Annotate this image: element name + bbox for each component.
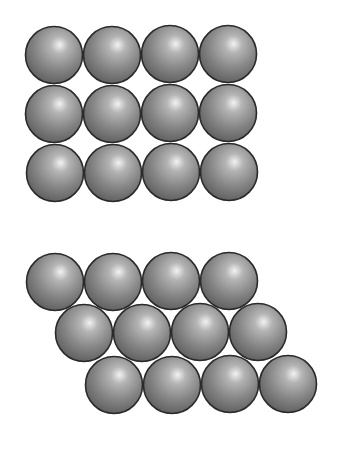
square-sphere: [142, 26, 199, 83]
hex-sphere: [144, 357, 201, 414]
hex-sphere: [114, 305, 171, 362]
square-sphere: [142, 85, 199, 142]
square-packing-group: [26, 26, 258, 202]
hex-sphere: [202, 356, 259, 413]
square-sphere: [200, 26, 257, 83]
hexagonal-packing-group: [27, 253, 317, 414]
hex-sphere: [85, 254, 142, 311]
hex-sphere: [230, 304, 287, 361]
hex-sphere: [56, 305, 113, 362]
sphere-packing-diagram: [0, 0, 337, 449]
square-sphere: [27, 145, 84, 202]
square-sphere: [200, 85, 257, 142]
hex-sphere: [86, 357, 143, 414]
hex-sphere: [143, 253, 200, 310]
square-sphere: [143, 144, 200, 201]
square-sphere: [84, 86, 141, 143]
square-sphere: [84, 27, 141, 84]
square-sphere: [26, 86, 83, 143]
hex-sphere: [172, 304, 229, 361]
square-sphere: [85, 145, 142, 202]
square-sphere: [26, 27, 83, 84]
hex-sphere: [201, 253, 258, 310]
hex-sphere: [27, 254, 84, 311]
square-sphere: [201, 144, 258, 201]
hex-sphere: [260, 356, 317, 413]
